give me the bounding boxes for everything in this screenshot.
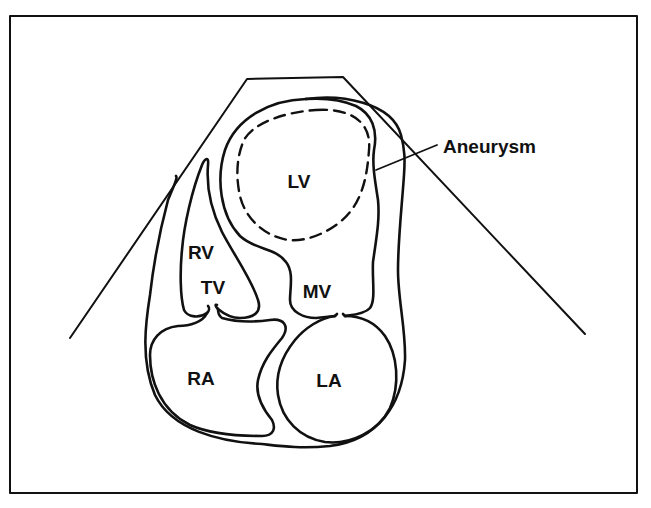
label-la: LA [316,371,341,390]
ra-chamber [150,309,286,436]
label-rv: RV [188,243,214,262]
mv-leaflet-gap [335,314,345,316]
label-mv: MV [303,282,332,301]
heart-diagram [0,0,651,508]
label-ra: RA [187,369,214,388]
heart-outer-contour [145,98,405,448]
label-aneurysm: Aneurysm [443,137,536,156]
label-tv: TV [201,278,225,297]
label-lv: LV [288,172,311,191]
figure-frame [10,16,637,493]
